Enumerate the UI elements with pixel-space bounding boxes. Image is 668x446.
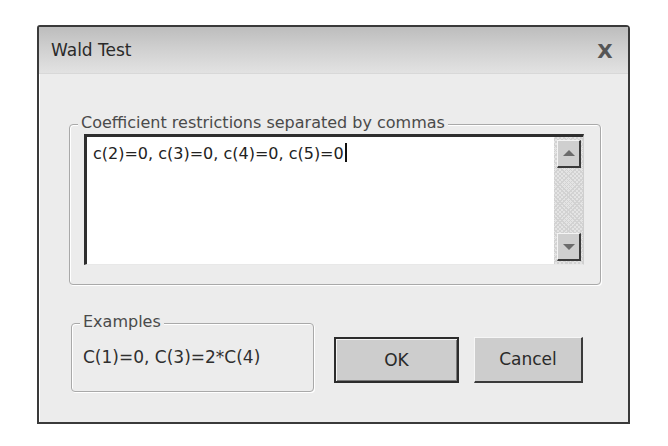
scroll-down-button[interactable] — [557, 233, 581, 261]
examples-text: C(1)=0, C(3)=2*C(4) — [83, 347, 260, 367]
arrow-down-icon — [563, 244, 575, 250]
dialog-title: Wald Test — [51, 40, 132, 60]
arrow-up-icon — [563, 150, 575, 156]
ok-button[interactable]: OK — [334, 337, 459, 383]
restrictions-value: c(2)=0, c(3)=0, c(4)=0, c(5)=0 — [93, 144, 344, 163]
restrictions-input-text: c(2)=0, c(3)=0, c(4)=0, c(5)=0 — [93, 143, 347, 163]
text-caret — [345, 143, 347, 162]
examples-group-label: Examples — [80, 312, 164, 332]
vertical-scrollbar[interactable] — [554, 137, 583, 264]
cancel-button[interactable]: Cancel — [474, 337, 583, 383]
close-icon: X — [597, 39, 612, 63]
scroll-up-button[interactable] — [557, 140, 581, 168]
restrictions-groupbox: Coefficient restrictions separated by co… — [69, 124, 601, 285]
wald-test-dialog: Wald Test X Coefficient restrictions sep… — [37, 25, 630, 424]
examples-groupbox: Examples C(1)=0, C(3)=2*C(4) — [71, 323, 314, 392]
restrictions-textarea[interactable]: c(2)=0, c(3)=0, c(4)=0, c(5)=0 — [84, 134, 584, 265]
title-bar[interactable]: Wald Test X — [39, 27, 628, 74]
restrictions-group-label: Coefficient restrictions separated by co… — [78, 113, 448, 133]
close-button[interactable]: X — [592, 39, 618, 63]
